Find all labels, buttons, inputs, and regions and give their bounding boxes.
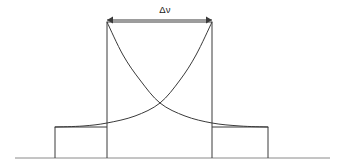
right-shoulder-step [212,127,268,158]
diagram-svg [0,0,342,168]
arrow-head-left-icon [107,16,113,23]
figure-canvas: Δν [0,0,342,168]
bandwidth-label: Δν [159,5,170,15]
left-shoulder-step [55,127,107,158]
rising-decay-curve [55,22,212,127]
arrow-head-right-icon [206,16,212,23]
falling-decay-curve [107,22,268,127]
